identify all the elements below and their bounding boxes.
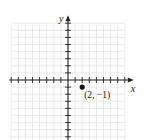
- axes: [9, 15, 134, 140]
- x-axis-label: x: [130, 83, 136, 94]
- coordinate-plane: x y (2, −1): [0, 0, 146, 140]
- point-marker: [80, 85, 85, 90]
- y-axis-label: y: [58, 13, 64, 24]
- point-label: (2, −1): [84, 90, 110, 101]
